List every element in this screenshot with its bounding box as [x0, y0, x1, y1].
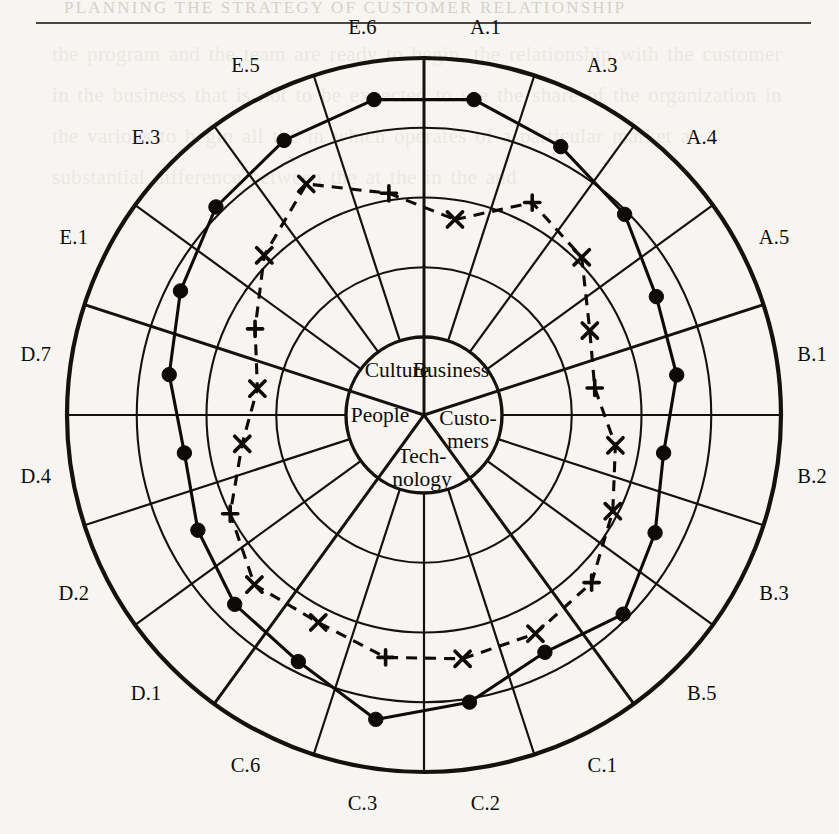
spoke-divider-4 — [498, 305, 763, 391]
spoke-divider-9 — [448, 489, 534, 754]
data-point-current-d-2 — [191, 523, 205, 537]
spoke-divider-13 — [135, 461, 361, 625]
data-point-target-c-6 — [311, 615, 326, 630]
data-point-current-e-6 — [367, 92, 381, 106]
data-point-current-d-4 — [177, 446, 191, 460]
axis-label-b-5: B.5 — [687, 682, 717, 704]
data-point-target-d-2 — [223, 506, 238, 521]
data-point-target-c-3 — [378, 650, 393, 665]
spoke-divider-16 — [84, 305, 349, 391]
spoke-divider-7 — [487, 461, 713, 625]
spoke-divider-6 — [498, 439, 763, 525]
spoke-divider-14 — [84, 439, 349, 525]
spoke-divider-8 — [470, 478, 634, 704]
axis-label-c-3: C.3 — [348, 792, 378, 814]
spoke-divider-2 — [470, 126, 634, 352]
data-point-current-b-2 — [656, 446, 670, 460]
hub-label-customers: Custo-mers — [439, 406, 496, 453]
axis-label-a-3: A.3 — [587, 54, 618, 76]
hub-label-people: People — [351, 403, 410, 427]
axis-label-e-3: E.3 — [132, 126, 161, 148]
spoke-divider-17 — [135, 205, 361, 369]
spoke-divider-18 — [214, 126, 378, 352]
hub-labels-layer: BusinessCusto-mersTech-nologyPeopleCultu… — [351, 358, 497, 491]
data-point-current-d-7 — [162, 367, 176, 381]
data-point-target-b-1 — [587, 380, 602, 395]
axis-label-d-1: D.1 — [131, 682, 162, 704]
data-point-target-c-1 — [528, 626, 543, 641]
data-point-target-e-5 — [299, 176, 314, 191]
data-point-target-e-1 — [247, 321, 262, 336]
radar-chart-svg: A.1A.3A.4A.5B.1B.2B.3B.5C.1C.2C.3C.6D.1D… — [0, 0, 839, 834]
axis-label-c-6: C.6 — [231, 754, 261, 776]
spoke-divider-3 — [487, 205, 713, 369]
axis-label-a-4: A.4 — [687, 126, 718, 148]
axis-label-b-3: B.3 — [759, 582, 789, 604]
spoke-divider-1 — [448, 75, 534, 340]
spoke-divider-11 — [314, 489, 400, 754]
hub-label-technology: Tech-nology — [392, 444, 452, 491]
data-point-current-b-5 — [616, 607, 630, 621]
axis-label-c-2: C.2 — [471, 792, 501, 814]
scanned-page: the program and the team are ready to be… — [0, 0, 839, 834]
data-point-target-c-2 — [455, 651, 470, 666]
spoke-divider-12 — [214, 478, 378, 704]
axis-label-d-2: D.2 — [58, 582, 89, 604]
data-point-current-a-3 — [554, 139, 568, 153]
axis-label-d-4: D.4 — [20, 465, 51, 487]
data-point-current-d-1 — [227, 597, 241, 611]
axis-label-e-1: E.1 — [60, 226, 89, 248]
data-point-current-c-2 — [462, 695, 476, 709]
data-point-current-c-6 — [291, 654, 305, 668]
data-point-current-e-1 — [173, 284, 187, 298]
data-point-current-b-1 — [670, 368, 684, 382]
data-point-current-c-3 — [369, 712, 383, 726]
axis-label-b-2: B.2 — [797, 465, 827, 487]
spoke-divider-19 — [314, 75, 400, 340]
data-point-current-e-5 — [277, 133, 291, 147]
axis-label-d-7: D.7 — [20, 343, 51, 365]
data-point-current-a-5 — [649, 289, 663, 303]
hub-label-culture: Culture — [365, 358, 430, 382]
axis-label-c-1: C.1 — [588, 754, 618, 776]
data-point-current-b-3 — [648, 526, 662, 540]
data-point-current-a-1 — [467, 92, 481, 106]
radar-chart: A.1A.3A.4A.5B.1B.2B.3B.5C.1C.2C.3C.6D.1D… — [0, 0, 839, 834]
axis-label-a-1: A.1 — [470, 16, 501, 38]
axis-label-b-1: B.1 — [797, 343, 827, 365]
axis-label-e-5: E.5 — [231, 54, 260, 76]
axis-label-a-5: A.5 — [759, 226, 790, 248]
data-point-target-b-5 — [584, 575, 599, 590]
axis-label-e-6: E.6 — [348, 16, 377, 38]
data-point-current-a-4 — [617, 207, 631, 221]
data-point-current-e-3 — [209, 200, 223, 214]
data-point-target-d-1 — [247, 577, 262, 592]
data-point-current-c-1 — [538, 645, 552, 659]
